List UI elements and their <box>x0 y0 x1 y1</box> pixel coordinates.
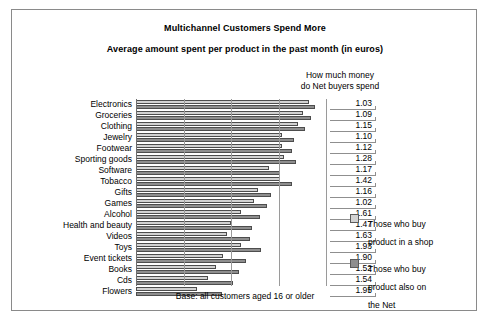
category-label: Event tickets <box>12 253 132 264</box>
bar-net <box>136 171 280 175</box>
bar-shop <box>136 243 241 247</box>
bar-net <box>136 270 239 274</box>
bar-shop <box>136 287 197 291</box>
legend-swatch-shop <box>350 214 359 223</box>
category-axis-labels: ElectronicsGroceriesClothingJewelryFootw… <box>12 99 132 297</box>
chart-legend: Those who buyproduct in a shopThose who … <box>350 213 470 321</box>
bar-shop <box>136 133 282 137</box>
gridline <box>279 99 280 286</box>
bar-net <box>136 248 261 252</box>
category-label: Electronics <box>12 99 132 110</box>
legend-label-shop: Those who buyproduct in a shop <box>368 219 433 247</box>
gridline <box>231 99 232 286</box>
bar-net <box>136 193 271 197</box>
ratio-value: 1.17 <box>355 164 372 175</box>
bar-net <box>136 182 292 186</box>
category-label: Jewelry <box>12 132 132 143</box>
category-label: Books <box>12 264 132 275</box>
ratio-value: 1.03 <box>355 98 372 109</box>
ratio-value: 1.09 <box>355 109 372 120</box>
ratio-value: 1.15 <box>355 120 372 131</box>
bar-net <box>136 116 311 120</box>
bar-net <box>136 138 294 142</box>
category-label: Footwear <box>12 143 132 154</box>
value-column-header: How much moneydo Net buyers spend <box>270 70 410 91</box>
plot-area <box>136 99 326 286</box>
bar-net <box>136 149 292 153</box>
category-label: Groceries <box>12 110 132 121</box>
bar-shop <box>136 144 282 148</box>
ratio-value: 1.10 <box>355 131 372 142</box>
bar-shop <box>136 155 284 159</box>
category-label: Software <box>12 165 132 176</box>
ratio-value: 1.02 <box>355 197 372 208</box>
chart-title: Multichannel Customers Spend More <box>12 23 478 33</box>
bar-net <box>136 160 296 164</box>
legend-item-shop: Those who buyproduct in a shop <box>350 213 470 249</box>
gridline <box>326 99 327 286</box>
bar-shop <box>136 100 309 104</box>
chart-subtitle: Average amount spent per product in the … <box>12 44 478 54</box>
bar-shop <box>136 122 298 126</box>
bar-shop <box>136 254 223 258</box>
category-label: Sporting goods <box>12 154 132 165</box>
ratio-value: 1.28 <box>355 153 372 164</box>
ratio-value: 1.16 <box>355 186 372 197</box>
bar-shop <box>136 166 269 170</box>
bar-shop <box>136 199 254 203</box>
value-column-header-line-1: do Net buyers spend <box>270 81 410 92</box>
bar-shop <box>136 177 280 181</box>
bar-net <box>136 215 260 219</box>
category-label: Toys <box>12 242 132 253</box>
bar-net <box>136 259 246 263</box>
ratio-value: 1.12 <box>355 142 372 153</box>
legend-item-net: Those who buyproduct also onthe Net <box>350 258 470 312</box>
bar-net <box>136 105 315 109</box>
bar-shop <box>136 210 241 214</box>
chart-frame: Multichannel Customers Spend More Averag… <box>11 9 477 311</box>
gridline <box>184 99 185 286</box>
value-axis-baseline <box>136 99 137 286</box>
category-label: Tobacco <box>12 176 132 187</box>
category-label: Alcohol <box>12 209 132 220</box>
bar-shop <box>136 188 258 192</box>
value-column-header-line-0: How much money <box>270 70 410 81</box>
bar-net <box>136 226 252 230</box>
category-label: Games <box>12 198 132 209</box>
bar-net <box>136 204 267 208</box>
category-label: Videos <box>12 231 132 242</box>
bar-shop <box>136 276 208 280</box>
bar-net <box>136 237 250 241</box>
ratio-value: 1.42 <box>355 175 372 186</box>
legend-swatch-net <box>350 259 359 268</box>
legend-label-net: Those who buyproduct also onthe Net <box>368 264 426 310</box>
category-label: Gifts <box>12 187 132 198</box>
chart-footnote: Base: all customers aged 16 or older <box>12 291 478 301</box>
category-label: Cds <box>12 275 132 286</box>
category-label: Health and beauty <box>12 220 132 231</box>
category-label: Clothing <box>12 121 132 132</box>
bar-shop <box>136 265 216 269</box>
bar-shop <box>136 232 227 236</box>
